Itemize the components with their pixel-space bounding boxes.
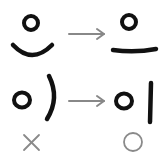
right-mark-label: ○	[130, 140, 131, 141]
row2-wrong-char	[14, 76, 54, 119]
diagram-canvas	[0, 0, 165, 163]
wrong-mark-label: ×	[30, 140, 31, 141]
row2-right-label: 이	[120, 95, 121, 96]
row2-right-char	[116, 83, 151, 122]
row1-wrong-label: 으	[20, 20, 21, 21]
right-mark-circle-icon	[124, 133, 142, 151]
row1-arrow-icon	[69, 29, 104, 39]
wrong-mark-x-icon	[24, 135, 39, 150]
row1-wrong-char	[13, 16, 52, 55]
row2-arrow-icon	[69, 96, 104, 106]
row1-right-label: 으	[120, 20, 121, 21]
row2-wrong-label: 이	[20, 95, 21, 96]
